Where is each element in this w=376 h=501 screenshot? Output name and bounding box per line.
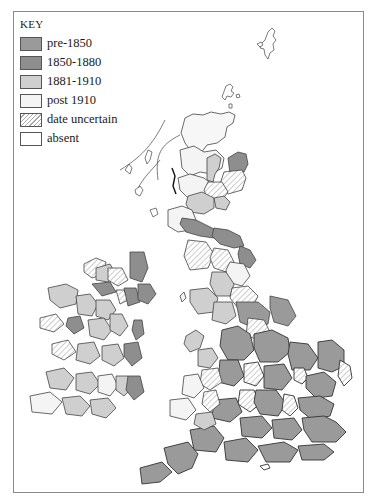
swatch-date-uncertain [20, 113, 42, 127]
swatch-absent [20, 132, 42, 146]
shetland-islands [257, 28, 276, 59]
scotland-west-coast [120, 120, 180, 217]
key-item-absent: absent [20, 129, 117, 148]
key-title: KEY [20, 18, 117, 30]
swatch-pre-1850 [20, 37, 42, 51]
key-label: 1850-1880 [47, 55, 101, 70]
key-label: absent [47, 131, 79, 146]
key-label: 1881-1910 [47, 74, 101, 89]
scotland-north [178, 112, 248, 214]
key-label: date uncertain [47, 112, 117, 127]
key-item-1881-1910: 1881-1910 [20, 72, 117, 91]
key-label: post 1910 [47, 93, 96, 108]
swatch-post-1910 [20, 94, 42, 108]
key-item-post-1910: post 1910 [20, 91, 117, 110]
orkney-islands [222, 84, 240, 108]
key-item-pre-1850: pre-1850 [20, 34, 117, 53]
key-label: pre-1850 [47, 36, 92, 51]
ireland [30, 252, 156, 418]
map-key: KEY pre-1850 1850-1880 1881-1910 post 19… [20, 18, 117, 148]
key-item-date-uncertain: date uncertain [20, 110, 117, 129]
swatch-1850-1880 [20, 56, 42, 70]
isle-of-man [180, 292, 186, 302]
swatch-1881-1910 [20, 75, 42, 89]
key-item-1850-1880: 1850-1880 [20, 53, 117, 72]
